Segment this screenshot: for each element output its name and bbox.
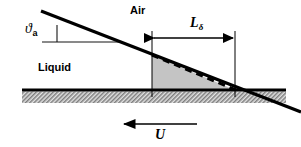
- length-symbol: L: [190, 15, 199, 30]
- angle-subscript: a: [32, 28, 37, 38]
- length-subscript: δ: [199, 22, 204, 32]
- label-velocity: U: [155, 128, 165, 142]
- label-liquid: Liquid: [38, 62, 71, 73]
- label-contact-angle: ϑa: [25, 22, 37, 38]
- label-length-delta: Lδ: [190, 16, 203, 32]
- contact-angle-figure: Air Liquid Lδ ϑa U: [0, 0, 301, 147]
- angle-symbol: ϑ: [25, 21, 32, 36]
- label-air: Air: [130, 5, 145, 16]
- figure-canvas: [0, 0, 301, 147]
